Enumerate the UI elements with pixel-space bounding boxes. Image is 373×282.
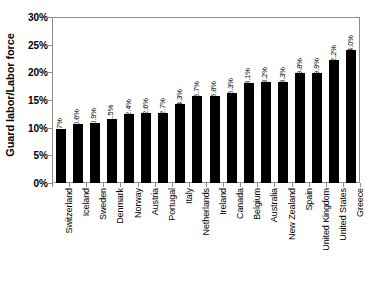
x-axis-tick-mark (223, 183, 224, 187)
x-axis-category-label: Ireland (218, 188, 228, 215)
y-axis-tick-label: 20% (28, 67, 48, 78)
x-axis-category-label: Portugal (167, 188, 177, 221)
x-axis-category-label: Australia (269, 188, 279, 222)
x-axis-category-label: Norway (133, 188, 143, 218)
bar-value-label: 19.9% (312, 58, 321, 79)
y-axis-tick-labels: 0%5%10%15%20%25%30% (18, 0, 52, 282)
y-axis-tick-label: 15% (28, 95, 48, 106)
x-axis-tick-mark (240, 183, 241, 187)
bar-value-label: 18.2% (260, 68, 269, 89)
bar (210, 96, 220, 183)
x-axis-category-label: Iceland (81, 188, 91, 216)
x-axis-category-label: New Zealand (287, 188, 297, 240)
x-axis-category-label: United Kingdom (321, 188, 331, 251)
x-axis-tick-mark (138, 183, 139, 187)
bar (124, 114, 134, 183)
x-axis-category-label: Netherlands (201, 188, 211, 235)
bar (227, 93, 237, 183)
x-axis-tick-mark (120, 183, 121, 187)
bar-value-label: 24.0% (346, 35, 355, 56)
bar-value-label: 9.7% (55, 119, 64, 136)
bar (329, 60, 339, 183)
y-axis-tick-label: 25% (28, 39, 48, 50)
bar (107, 119, 117, 183)
bar-value-label: 16.3% (226, 78, 235, 99)
bar (278, 82, 288, 183)
x-axis-category-label: Greece (355, 188, 365, 217)
bar-value-label: 12.7% (158, 98, 167, 119)
x-axis-category-label: Italy (184, 188, 194, 204)
x-axis-tick-mark (257, 183, 258, 187)
bar (244, 83, 254, 183)
bar-value-label: 18.3% (278, 67, 287, 88)
bar (295, 73, 305, 183)
x-axis-tick-mark (69, 183, 70, 187)
x-axis-category-label: Canada (235, 188, 245, 219)
bar (261, 82, 271, 183)
bar-value-label: 10.9% (89, 108, 98, 129)
x-axis-category-label: Spain (304, 188, 314, 211)
x-axis-tick-mark (343, 183, 344, 187)
x-axis-category-label: Sweden (98, 188, 108, 220)
bar-value-label: 22.2% (329, 45, 338, 66)
x-axis-category-label: Austria (150, 188, 160, 215)
x-axis-category-label: Denmark (115, 188, 125, 224)
x-axis-tick-mark (86, 183, 87, 187)
bars-layer: 9.7%10.6%10.9%11.5%12.4%12.6%12.7%14.3%1… (52, 17, 360, 183)
x-axis-tick-mark (52, 183, 53, 187)
x-axis-tick-mark (292, 183, 293, 187)
x-axis-tick-mark (103, 183, 104, 187)
bar-value-label: 12.6% (141, 98, 150, 119)
y-axis-tick-label: 30% (28, 12, 48, 23)
bar-value-label: 18.1% (243, 68, 252, 89)
bar (90, 123, 100, 183)
x-axis-tick-mark (326, 183, 327, 187)
bar (312, 73, 322, 183)
x-axis-tick-mark (360, 183, 361, 187)
x-axis-category-labels: SwitzerlandIcelandSwedenDenmarkNorwayAus… (52, 188, 360, 282)
bar-chart: Guard labor/Labor force 0%5%10%15%20%25%… (0, 0, 373, 282)
bar (175, 104, 185, 183)
bar (73, 124, 83, 183)
x-axis-tick-mark (206, 183, 207, 187)
y-axis-title: Guard labor/Labor force (0, 0, 20, 190)
bar-value-label: 15.8% (209, 81, 218, 102)
bar (141, 113, 151, 183)
x-axis-tick-mark (172, 183, 173, 187)
x-axis-category-label: Switzerland (64, 188, 74, 233)
x-axis-tick-mark (189, 183, 190, 187)
bar-value-label: 14.3% (175, 89, 184, 110)
bar (158, 113, 168, 183)
x-axis-category-label: United States (338, 188, 348, 241)
x-axis-category-label: Belgium (252, 188, 262, 220)
x-axis-tick-mark (309, 183, 310, 187)
y-axis-tick-label: 10% (28, 122, 48, 133)
bar (56, 129, 66, 183)
bar (346, 50, 356, 183)
bar-value-label: 10.6% (72, 110, 81, 131)
bar-value-label: 12.4% (124, 100, 133, 121)
bar-value-label: 15.7% (192, 81, 201, 102)
y-axis-title-text: Guard labor/Labor force (4, 33, 16, 157)
bar-value-label: 11.5% (106, 105, 115, 125)
x-axis-tick-mark (274, 183, 275, 187)
x-axis-tick-mark (155, 183, 156, 187)
bar-value-label: 19.8% (295, 59, 304, 80)
bar (192, 96, 202, 183)
